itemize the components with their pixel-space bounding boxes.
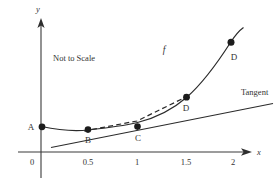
- point-c-marker: [134, 123, 141, 130]
- point-label-d-upper: D: [231, 52, 238, 62]
- not-to-scale-note: Not to Scale: [53, 53, 95, 63]
- function-name-label: f: [163, 45, 167, 55]
- point-label-a: A: [28, 122, 35, 132]
- point-label-c: C: [135, 133, 141, 143]
- x-tick-labels: 0 0.5 1 1.5 2: [30, 157, 235, 167]
- point-a-marker: [39, 123, 46, 130]
- point-label-b: B: [85, 135, 91, 145]
- point-d2-marker: [228, 39, 235, 46]
- x-tick-label-1point5: 1.5: [181, 157, 192, 167]
- axes-group: [18, 18, 252, 178]
- x-tick-label-0: 0: [30, 157, 34, 167]
- figure-canvas: y x 0 0.5 1 1.5 2 A B C D: [0, 0, 280, 188]
- x-tick-label-2: 2: [231, 157, 235, 167]
- x-tick-label-0point5: 0.5: [83, 157, 94, 167]
- point-b-marker: [85, 126, 92, 133]
- point-labels-group: A B C D D: [28, 52, 238, 145]
- tangent-line-label: Tangent: [241, 87, 269, 97]
- y-axis-label: y: [35, 4, 40, 14]
- point-d1-marker: [183, 94, 190, 101]
- x-tick-label-1: 1: [135, 157, 139, 167]
- function-tangent-figure: y x 0 0.5 1 1.5 2 A B C D: [0, 0, 280, 188]
- x-axis-label: x: [256, 147, 261, 157]
- point-label-d-middle: D: [183, 103, 190, 113]
